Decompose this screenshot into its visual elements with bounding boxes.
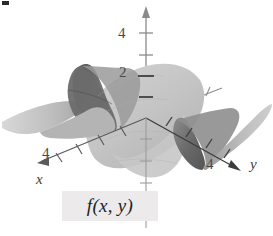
function-caption-text: f(x, y) (87, 195, 133, 217)
y-axis-label: y (250, 157, 257, 172)
x-axis-label: x (36, 172, 43, 187)
z-axis-tick-label-4: 4 (118, 26, 126, 41)
function-caption-box: f(x, y) (62, 191, 158, 221)
x-axis-tick-label-4: 4 (42, 146, 50, 161)
z-axis-tick-label-2: 2 (119, 65, 127, 80)
y-axis-tick-label-4: 4 (206, 157, 214, 172)
surface-plot-figure: 4 2 4 4 x y f(x, y) (0, 0, 273, 236)
